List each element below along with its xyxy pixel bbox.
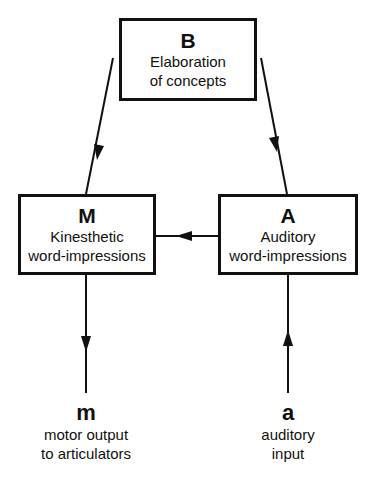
terminal-m-key: m (16, 401, 156, 425)
arrowhead-up-input-to-a (283, 330, 293, 346)
node-b-line-2: of concepts (122, 71, 254, 90)
terminal-a-key: a (218, 401, 358, 425)
node-b-key: B (122, 30, 254, 52)
node-a-key: A (221, 205, 355, 227)
arrowhead-left-a-to-m (176, 231, 192, 241)
terminal-a-line-2: input (218, 444, 358, 463)
node-b-line-1: Elaboration (122, 52, 254, 71)
terminal-m-motor-output: m motor output to articulators (16, 401, 156, 463)
terminal-m-line-1: motor output (16, 425, 156, 444)
node-a-auditory-word-impressions: A Auditory word-impressions (218, 194, 358, 275)
node-m-line-2: word-impressions (21, 246, 153, 265)
node-b-elaboration-of-concepts: B Elaboration of concepts (119, 18, 257, 101)
node-a-line-1: Auditory (221, 227, 355, 246)
terminal-m-line-2: to articulators (16, 444, 156, 463)
node-m-line-1: Kinesthetic (21, 227, 153, 246)
arrowhead-down-b-to-m (94, 144, 104, 160)
node-m-kinesthetic-word-impressions: M Kinesthetic word-impressions (18, 194, 156, 275)
node-m-key: M (21, 205, 153, 227)
terminal-a-line-1: auditory (218, 425, 358, 444)
terminal-a-auditory-input: a auditory input (218, 401, 358, 463)
arrowhead-down-m-to-output (81, 336, 91, 352)
node-a-line-2: word-impressions (221, 246, 355, 265)
edge-a-to-b (261, 58, 287, 194)
edge-b-to-m (86, 58, 113, 194)
